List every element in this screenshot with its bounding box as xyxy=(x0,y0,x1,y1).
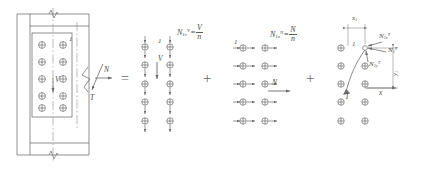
panel4-force-resultant-label: N1T xyxy=(388,47,397,54)
panel4-force-y-label: N1yT xyxy=(369,61,380,68)
panel4-force-r-sup: T xyxy=(395,46,397,51)
panel1-bolt-group xyxy=(39,42,67,112)
panel4-force-x-sup: T xyxy=(388,32,390,37)
panel4-dim-y1-sub: 1 xyxy=(394,71,399,73)
panel4-torsion-label: T xyxy=(345,93,349,101)
panel2-eq-denominator: n xyxy=(196,33,203,41)
panel2-bolt-1-label: 1 xyxy=(158,38,162,45)
operator-plus-2: + xyxy=(306,71,314,86)
panel4-force-vector-resultant xyxy=(368,48,386,52)
panel4-bolt-1-label: 1 xyxy=(352,41,356,48)
panel3-eq-denominator: n xyxy=(289,35,296,43)
figure-canvas: 1 V N T = 1 V N1vV = Vn + 1 N N1xN = Nn … xyxy=(0,0,422,169)
panel1-axial-label: N xyxy=(104,66,109,74)
panel1-torsion-label: T xyxy=(90,94,94,102)
panel4-bolt-group xyxy=(338,45,368,124)
panel1-beam-outline xyxy=(30,14,89,155)
panel3-equation: N1xN = Nn xyxy=(270,26,297,44)
panel4-axis-x-label: x xyxy=(379,89,382,97)
panel4-dim-y1-base: y xyxy=(391,73,399,76)
panel1-shear-label: V xyxy=(55,76,60,84)
panel4-dim-y1-label: y1 xyxy=(391,71,399,76)
panel4-force-x-label: N1xT xyxy=(379,33,390,40)
panel3-bolt-group xyxy=(240,45,268,124)
operator-equals: = xyxy=(121,72,129,86)
panel4-force-vector-y xyxy=(366,51,368,62)
panel4-force-vector-x xyxy=(368,42,382,46)
panel1-bolt-1-label: 1 xyxy=(69,36,73,43)
panel2-bolt-force-arrows xyxy=(145,36,170,132)
panel4-dim-x1-sub: 1 xyxy=(355,17,357,22)
operator-plus-1: + xyxy=(203,71,211,86)
panel4-dimension-x1 xyxy=(346,24,367,46)
panel2-shear-label: V xyxy=(158,55,163,63)
panel1-torsion-arc xyxy=(92,64,103,90)
panel4-torsion-arc xyxy=(343,50,365,95)
panel3-axial-label: N xyxy=(272,79,277,87)
panel4-force-y-sup: T xyxy=(378,60,380,65)
panel2-eq-fraction: Vn xyxy=(196,24,203,42)
panel3-eq-fraction: Nn xyxy=(289,26,296,44)
panel4-dim-x1-label: x1 xyxy=(352,15,357,22)
panel3-bolt-1-label: 1 xyxy=(234,39,238,46)
panel2-equation: N1vV = Vn xyxy=(177,24,203,42)
